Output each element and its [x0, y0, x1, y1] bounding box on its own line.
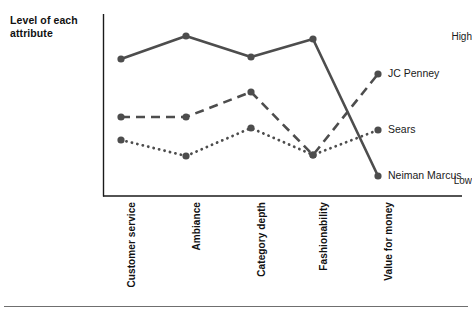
x-label-value-for-money: Value for money [383, 202, 394, 281]
x-label-fashionability: Fashionability [318, 202, 329, 271]
x-axis-labels: Customer service Ambiance Category depth… [0, 0, 472, 319]
x-label-ambiance: Ambiance [191, 202, 202, 251]
bottom-divider [4, 306, 468, 307]
chart-page: Level of each attribute High Low [0, 0, 472, 319]
x-label-customer-service: Customer service [126, 202, 137, 288]
x-label-category-depth: Category depth [256, 202, 267, 277]
